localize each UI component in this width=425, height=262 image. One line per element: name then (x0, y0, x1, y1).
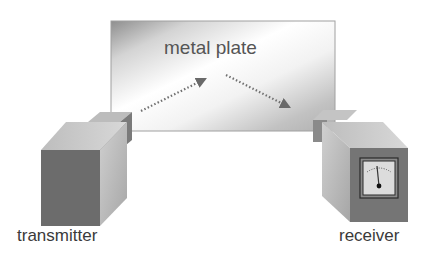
transmitter-label: transmitter (17, 226, 97, 246)
meter-gauge-icon (360, 158, 398, 198)
receiver-label: receiver (339, 226, 399, 246)
transmitter-box (41, 122, 127, 226)
metal-plate-label: metal plate (164, 37, 257, 59)
